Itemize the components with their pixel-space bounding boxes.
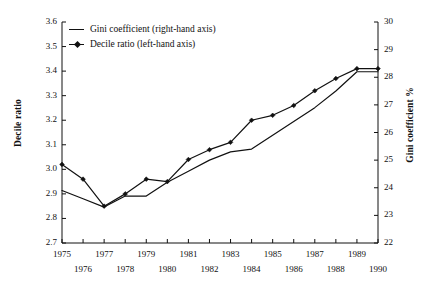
legend-item-gini: Gini coefficient (right-hand axis) (68, 22, 216, 37)
chart-legend: Gini coefficient (right-hand axis) Decil… (68, 22, 216, 52)
x-axis-tick-label-odd: 1987 (298, 249, 332, 259)
left-axis-ticks (62, 22, 66, 243)
left-axis-tick-label: 2.7 (31, 237, 57, 247)
chart-figure: Decile ratio Gini coefficient % Gini coe… (0, 0, 424, 290)
x-axis-tick-label-odd: 1977 (87, 249, 121, 259)
x-axis-tick-label-even: 1982 (192, 264, 226, 274)
left-axis-title: Decile ratio (13, 78, 23, 168)
right-axis-tick-label: 26 (384, 127, 410, 137)
x-axis-tick-label-odd: 1975 (45, 249, 79, 259)
legend-line-icon (68, 24, 86, 36)
right-axis-tick-label: 27 (384, 99, 410, 109)
left-axis-tick-label: 3.1 (31, 139, 57, 149)
right-axis-tick-label: 25 (384, 154, 410, 164)
series-line-decile-ratio (60, 66, 381, 208)
x-axis-tick-label-even: 1986 (277, 264, 311, 274)
x-axis-tick-label-even: 1988 (319, 264, 353, 274)
x-axis-tick-label-even: 1990 (361, 264, 395, 274)
series-line-gini-coefficient (62, 72, 378, 207)
left-axis-tick-label: 3.0 (31, 163, 57, 173)
x-axis-tick-label-odd: 1979 (129, 249, 163, 259)
left-axis-tick-label: 3.4 (31, 65, 57, 75)
x-axis-tick-label-odd: 1989 (340, 249, 374, 259)
axis-frame (62, 22, 378, 243)
left-axis-tick-label: 2.8 (31, 212, 57, 222)
left-axis-tick-label: 3.2 (31, 114, 57, 124)
legend-label-decile: Decile ratio (left-hand axis) (90, 37, 195, 52)
x-axis-tick-label-even: 1976 (66, 264, 100, 274)
left-axis-tick-label: 3.6 (31, 16, 57, 26)
x-axis-tick-label-even: 1980 (150, 264, 184, 274)
x-axis-tick-label-odd: 1981 (171, 249, 205, 259)
right-axis-tick-label: 23 (384, 209, 410, 219)
x-axis-tick-label-odd: 1985 (256, 249, 290, 259)
right-axis-ticks (374, 22, 378, 243)
right-axis-tick-label: 30 (384, 16, 410, 26)
legend-item-decile: Decile ratio (left-hand axis) (68, 37, 216, 52)
right-axis-tick-label: 24 (384, 182, 410, 192)
legend-label-gini: Gini coefficient (right-hand axis) (90, 22, 216, 37)
left-axis-tick-label: 3.5 (31, 41, 57, 51)
legend-line-diamond-icon (68, 39, 86, 51)
x-axis-tick-label-even: 1978 (108, 264, 142, 274)
left-axis-tick-label: 3.3 (31, 90, 57, 100)
right-axis-tick-label: 28 (384, 71, 410, 81)
right-axis-tick-label: 29 (384, 44, 410, 54)
x-axis-tick-label-even: 1984 (235, 264, 269, 274)
right-axis-tick-label: 22 (384, 237, 410, 247)
x-axis-tick-label-odd: 1983 (214, 249, 248, 259)
bottom-axis-ticks (62, 239, 378, 243)
left-axis-tick-label: 2.9 (31, 188, 57, 198)
